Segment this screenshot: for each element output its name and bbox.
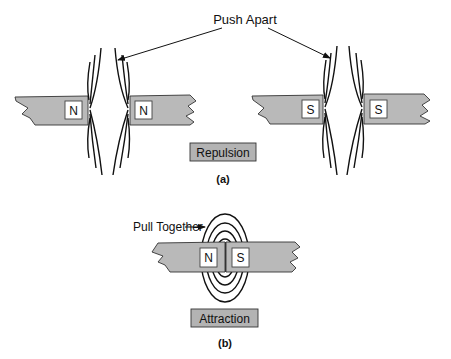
pole-label-s: S bbox=[306, 103, 314, 117]
field-lines-repulsion-left bbox=[88, 48, 130, 175]
repulsion-label: Repulsion bbox=[196, 146, 249, 160]
magnet-pair-south-south: S S bbox=[252, 46, 430, 175]
push-apart-arrow-left bbox=[118, 28, 222, 60]
caption-b: (b) bbox=[218, 337, 232, 349]
push-apart-label: Push Apart bbox=[213, 12, 277, 27]
pole-label-n: N bbox=[204, 251, 213, 265]
field-lines-repulsion-right bbox=[323, 46, 364, 175]
attraction-label: Attraction bbox=[199, 312, 250, 326]
magnet-pair-north-north: N N bbox=[15, 48, 196, 175]
pole-label-s: S bbox=[236, 251, 244, 265]
caption-a: (a) bbox=[216, 173, 230, 185]
magnet-diagram: Push Apart N N bbox=[0, 0, 451, 359]
part-b-attraction: Pull Together N S Attraction (b) bbox=[133, 214, 300, 349]
pole-label-n: N bbox=[139, 104, 148, 118]
push-apart-arrow-right bbox=[268, 28, 330, 58]
pole-label-n: N bbox=[69, 104, 78, 118]
pole-label-s: S bbox=[374, 103, 382, 117]
part-a-repulsion: Push Apart N N bbox=[15, 12, 430, 185]
